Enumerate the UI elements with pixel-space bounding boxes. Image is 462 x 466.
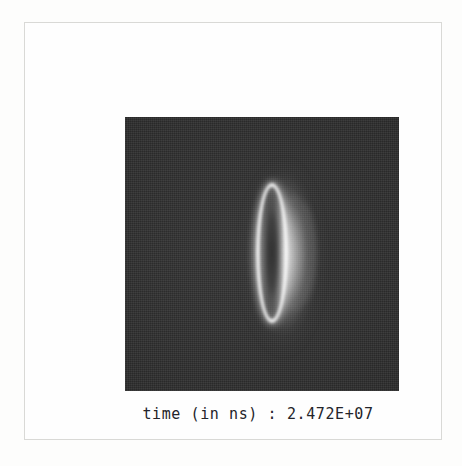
field-vignette [125, 117, 399, 391]
field-noise-texture [125, 117, 399, 391]
simulation-field-panel [125, 117, 399, 391]
plasma-core-cavity [262, 191, 282, 315]
plasma-halo [243, 159, 347, 355]
plasma-shell [252, 175, 314, 333]
figure-page: time (in ns) : 2.472E+07 [0, 0, 462, 466]
page-frame: time (in ns) : 2.472E+07 [24, 22, 442, 440]
plasma-tail-plume [265, 189, 361, 325]
plasma-ring [256, 183, 288, 323]
plasma-inner-arc [275, 197, 315, 309]
time-caption: time (in ns) : 2.472E+07 [49, 405, 462, 423]
